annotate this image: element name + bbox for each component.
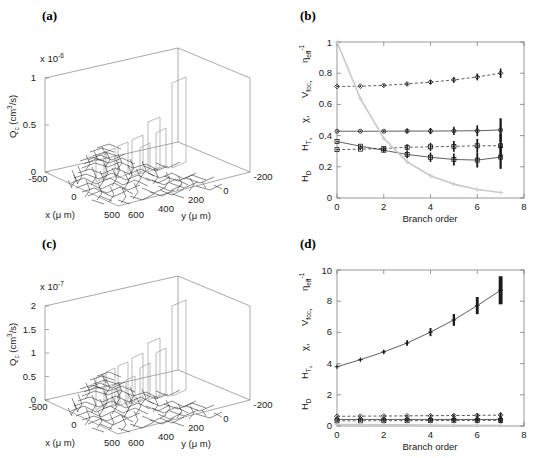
- y-tick-1: 400: [158, 203, 174, 214]
- svg-text:ηeff-1: ηeff-1: [298, 272, 312, 291]
- svg-text:HT,: HT,: [299, 138, 313, 152]
- panel-a-axes-3d: [45, 48, 250, 206]
- yt-1: 1: [327, 37, 332, 48]
- panel-d-xaxis-label: Branch order: [403, 441, 458, 452]
- svg-text:χ,: χ,: [299, 343, 310, 351]
- xt-4: 4: [428, 201, 433, 212]
- panel-c-plot: x 10-7 2 1.5 1 0.5 0 Qc (cm3/s) -500 0 5…: [0, 248, 280, 453]
- cx-1: 0: [71, 419, 76, 430]
- svg-text:HT,: HT,: [299, 366, 313, 380]
- cz-4: 2: [31, 300, 36, 311]
- panel-b-xaxis-label: Branch order: [403, 213, 458, 224]
- marker-plus: [451, 318, 456, 323]
- panel-d-yaxis-label: HD HT, χ, Vfoc, ηeff-1: [298, 272, 313, 410]
- panel-c-svg: x 10-7 2 1.5 1 0.5 0 Qc (cm3/s) -500 0 5…: [0, 248, 280, 453]
- yt-06: 0.6: [319, 98, 332, 109]
- yt-08: 0.8: [319, 67, 332, 78]
- cz-2: 1: [31, 347, 36, 358]
- marker-plus: [451, 423, 456, 428]
- dyt-4: 4: [327, 358, 332, 369]
- x-tick-2: 500: [104, 209, 120, 220]
- panel-a-svg: x 10-6 1 0.5 0 Qc (cm3/s) -500 0 500 x (…: [0, 20, 280, 225]
- dxt-2: 2: [381, 429, 386, 440]
- marker-plus: [498, 423, 503, 428]
- cy-3: 0: [223, 413, 228, 424]
- marker-plus: [335, 364, 340, 369]
- panel-d-data: [335, 276, 503, 428]
- dyt-8: 8: [327, 295, 332, 306]
- dyt-2: 2: [327, 389, 332, 400]
- y-tick-0: 600: [128, 209, 144, 220]
- series-line: [337, 130, 501, 131]
- svg-text:Vfoc,: Vfoc,: [299, 80, 313, 98]
- series-V_foc: [335, 118, 503, 141]
- panel-a-yaxis-label: y (μ m): [181, 210, 211, 221]
- xt-2: 2: [381, 201, 386, 212]
- yt-02: 0.2: [319, 161, 332, 172]
- panel-d-svg: 0 2 4 6 8 0 2 4 6 8 10 Branch order HD H…: [280, 248, 544, 453]
- svg-text:HD: HD: [299, 398, 312, 410]
- xt-6: 6: [475, 201, 480, 212]
- dyt-10: 10: [321, 265, 332, 276]
- marker-plus: [475, 423, 480, 428]
- svg-text:HD: HD: [299, 170, 312, 182]
- z-tick-2: 1: [31, 72, 36, 83]
- panel-c-xaxis-label: x (μ m): [45, 437, 75, 448]
- panel-b-plot: 0 2 4 6 8 0 0.2 0.4 0.6 0.8 1 Branch ord…: [280, 20, 544, 225]
- dyt-0: 0: [327, 420, 332, 431]
- dxt-4: 4: [428, 429, 433, 440]
- x-tick-1: 0: [71, 191, 76, 202]
- marker-plus: [428, 330, 433, 335]
- xt-8: 8: [521, 201, 526, 212]
- panel-b-y-ticklabels: 0 0.2 0.4 0.6 0.8 1: [319, 37, 332, 203]
- series-chi: [335, 40, 503, 195]
- panel-d-x-ticklabels: 0 2 4 6 8: [334, 429, 526, 440]
- marker-plus: [451, 182, 456, 187]
- panel-b-data: [335, 40, 503, 195]
- yt-0: 0: [327, 192, 332, 203]
- panel-c-zaxis-label: Qc (cm3/s): [6, 323, 20, 366]
- marker-plus: [405, 423, 410, 428]
- panel-c-axes-3d: [45, 276, 250, 434]
- marker-plus: [405, 341, 410, 346]
- dyt-6: 6: [327, 326, 332, 337]
- dxt-0: 0: [334, 429, 339, 440]
- cx-2: 500: [104, 437, 120, 448]
- y-tick-4: -200: [253, 171, 272, 182]
- z-tick-1: 0.5: [23, 119, 36, 130]
- marker-plus: [428, 423, 433, 428]
- y-tick-3: 0: [223, 185, 228, 196]
- xt-0: 0: [334, 201, 339, 212]
- cy-2: 200: [188, 422, 204, 433]
- dxt-8: 8: [521, 429, 526, 440]
- cy-1: 400: [158, 431, 174, 442]
- marker-plus: [335, 40, 340, 45]
- panel-c-yaxis-label: y (μ m): [181, 438, 211, 449]
- panel-d-plot: 0 2 4 6 8 0 2 4 6 8 10 Branch order HD H…: [280, 248, 544, 453]
- panel-d-y-ticklabels: 0 2 4 6 8 10: [321, 265, 332, 431]
- panel-a-exponent: x 10-6: [40, 52, 64, 64]
- marker-plus: [475, 303, 480, 308]
- series-eta_eff^-1: [335, 69, 503, 89]
- marker-plus: [381, 350, 386, 355]
- cy-0: 600: [128, 437, 144, 448]
- dxt-6: 6: [475, 429, 480, 440]
- cy-4: -200: [253, 399, 272, 410]
- panel-b-svg: 0 2 4 6 8 0 0.2 0.4 0.6 0.8 1 Branch ord…: [280, 20, 544, 225]
- svg-text:Vfoc,: Vfoc,: [299, 308, 313, 326]
- panel-b-x-ticklabels: 0 2 4 6 8: [334, 201, 526, 212]
- panel-c-exponent: x 10-7: [40, 280, 64, 292]
- cz-1: 0.5: [23, 371, 36, 382]
- panel-a-plot: x 10-6 1 0.5 0 Qc (cm3/s) -500 0 500 x (…: [0, 20, 280, 225]
- x-tick-0: -500: [28, 173, 47, 184]
- cz-3: 1.5: [23, 324, 36, 335]
- marker-plus: [358, 357, 363, 362]
- svg-text:ηeff-1: ηeff-1: [298, 44, 312, 63]
- marker-plus: [475, 187, 480, 192]
- series-line: [337, 42, 501, 193]
- series-H_D: [335, 417, 503, 423]
- panel-a-xaxis-label: x (μ m): [45, 209, 75, 220]
- panel-a-zaxis-label: Qc (cm3/s): [6, 95, 20, 138]
- svg-text:χ,: χ,: [299, 115, 310, 123]
- marker-plus: [498, 190, 503, 195]
